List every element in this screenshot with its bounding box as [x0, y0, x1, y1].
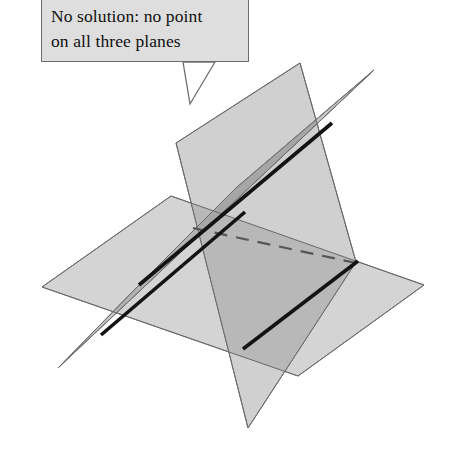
callout-tail: [170, 58, 230, 108]
callout-line-2: on all three planes: [51, 29, 240, 54]
three-planes-diagram: [0, 0, 463, 451]
no-solution-callout: No solution: no point on all three plane…: [41, 0, 249, 62]
figure-canvas: No solution: no point on all three plane…: [0, 0, 463, 451]
callout-line-1: No solution: no point: [51, 4, 240, 29]
